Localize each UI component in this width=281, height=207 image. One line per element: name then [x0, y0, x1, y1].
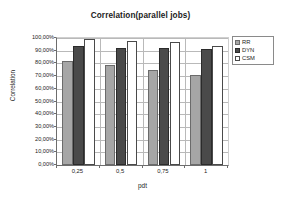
bar-rr-3 [190, 75, 201, 165]
legend-swatch-icon [235, 40, 240, 45]
legend-label: CSM [242, 55, 255, 62]
legend-item-rr[interactable]: RR [235, 39, 271, 46]
x-tick-mark [227, 165, 228, 168]
bar-csm-3 [212, 46, 223, 165]
bar-group [143, 38, 186, 165]
legend-item-dyn[interactable]: DYN [235, 47, 271, 54]
legend-swatch-icon [235, 56, 240, 61]
bar-csm-0 [84, 39, 95, 165]
bar-dyn-2 [159, 48, 170, 165]
chart-legend: RRDYNCSM [232, 36, 274, 65]
bar-group [100, 38, 143, 165]
x-tick-mark [142, 165, 143, 168]
x-tick-label: 0,25 [72, 168, 83, 174]
bar-chart: Correlation(parallel jobs) Correlation 1… [0, 0, 281, 207]
bar-rr-0 [62, 61, 73, 165]
bar-dyn-1 [116, 48, 127, 165]
y-tick-label: 100,00% [18, 34, 54, 40]
y-axis-ticks: 100,00%90,00%80,00%70,00%60,00%50,00%40,… [14, 37, 54, 166]
x-tick-label: 0,5 [116, 168, 124, 174]
legend-swatch-icon [235, 48, 240, 53]
bar-csm-1 [127, 41, 138, 165]
y-tick-label: 10,00% [18, 148, 54, 154]
bar-rr-1 [105, 65, 116, 165]
y-tick-label: 30,00% [18, 123, 54, 129]
y-tick-label: 80,00% [18, 59, 54, 65]
x-tick-mark [56, 165, 57, 168]
bar-rr-2 [148, 70, 159, 165]
legend-label: RR [242, 39, 250, 46]
x-axis-ticks: 0,250,50,751 [56, 168, 229, 180]
y-tick-label: 60,00% [18, 85, 54, 91]
bar-dyn-3 [201, 49, 212, 165]
bar-group [185, 38, 228, 165]
bar-group [57, 38, 100, 165]
y-tick-label: 90,00% [18, 47, 54, 53]
bar-csm-2 [170, 42, 181, 165]
x-tick-label: 0,75 [157, 168, 168, 174]
bar-dyn-0 [73, 46, 84, 165]
legend-item-csm[interactable]: CSM [235, 55, 271, 62]
y-tick-label: 0,00% [18, 161, 54, 167]
x-tick-mark [99, 165, 100, 168]
legend-label: DYN [242, 47, 254, 54]
x-tick-mark [184, 165, 185, 168]
y-tick-label: 50,00% [18, 98, 54, 104]
y-tick-label: 70,00% [18, 72, 54, 78]
x-axis-title: pdt [56, 182, 229, 189]
x-tick-label: 1 [204, 168, 207, 174]
plot-area [56, 37, 229, 166]
y-tick-label: 40,00% [18, 110, 54, 116]
y-tick-label: 20,00% [18, 136, 54, 142]
chart-title: Correlation(parallel jobs) [0, 11, 281, 20]
